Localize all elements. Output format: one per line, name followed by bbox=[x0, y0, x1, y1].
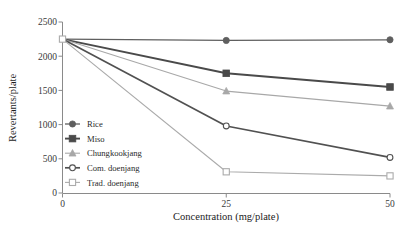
x-axis-title: Concentration (mg/plate) bbox=[173, 211, 279, 223]
series-rice bbox=[63, 37, 394, 44]
x-tick-label: 50 bbox=[385, 199, 395, 209]
y-axis-tick-marks bbox=[59, 22, 63, 193]
data-point bbox=[223, 123, 229, 129]
y-axis-title: Revertants/plate bbox=[7, 74, 18, 143]
data-point bbox=[223, 169, 229, 175]
y-tick-label: 1000 bbox=[38, 120, 57, 130]
legend-item: Trad. doenjang bbox=[65, 178, 139, 188]
chart-legend: RiceMisoChungkookjangCom. doenjangTrad. … bbox=[65, 119, 143, 187]
x-tick-label: 0 bbox=[60, 199, 65, 209]
legend-item: Com. doenjang bbox=[65, 163, 140, 173]
legend-marker bbox=[69, 135, 76, 142]
data-point bbox=[59, 36, 65, 42]
y-tick-label: 500 bbox=[43, 154, 58, 164]
data-point bbox=[387, 37, 393, 43]
legend-marker bbox=[70, 165, 76, 171]
data-point bbox=[387, 173, 393, 179]
data-point bbox=[387, 84, 394, 91]
y-tick-label: 1500 bbox=[38, 86, 57, 96]
legend-marker bbox=[69, 179, 75, 185]
legend-label: Miso bbox=[87, 134, 105, 144]
y-tick-label: 0 bbox=[52, 188, 57, 198]
legend-label: Rice bbox=[87, 119, 103, 129]
series-com-doenjang bbox=[63, 39, 393, 160]
series-line bbox=[63, 39, 391, 157]
x-tick-label: 25 bbox=[222, 199, 232, 209]
data-point bbox=[223, 37, 229, 43]
series-line bbox=[63, 39, 391, 87]
y-axis-tick-labels: 05001000150020002500 bbox=[38, 17, 57, 198]
data-point bbox=[223, 70, 230, 77]
legend-label: Trad. doenjang bbox=[87, 178, 139, 188]
chart-container: Revertants/plate 05001000150020002500 02… bbox=[0, 0, 412, 239]
line-chart: Revertants/plate 05001000150020002500 02… bbox=[0, 0, 412, 239]
y-tick-label: 2000 bbox=[38, 52, 57, 62]
legend-item: Chungkookjang bbox=[65, 148, 143, 158]
data-point bbox=[387, 155, 393, 161]
y-tick-label: 2500 bbox=[38, 17, 57, 27]
legend-item: Rice bbox=[65, 119, 103, 129]
x-axis-tick-marks bbox=[63, 194, 391, 198]
legend-label: Chungkookjang bbox=[87, 148, 143, 158]
legend-label: Com. doenjang bbox=[87, 163, 140, 173]
legend-item: Miso bbox=[65, 134, 105, 144]
legend-marker bbox=[69, 121, 75, 127]
x-axis-tick-labels: 02550 bbox=[60, 199, 395, 209]
